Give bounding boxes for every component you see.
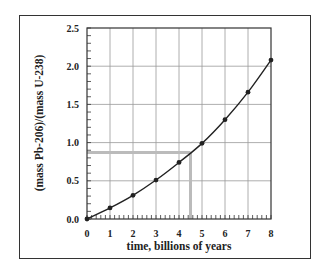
data-point-marker — [246, 90, 251, 95]
x-tick-label: 4 — [177, 228, 182, 239]
data-point-marker — [177, 160, 182, 165]
data-point-marker — [85, 217, 90, 222]
data-point-marker — [131, 193, 136, 198]
data-point-marker — [108, 206, 113, 211]
x-tick-label: 6 — [223, 228, 228, 239]
x-axis-title: time, billions of years — [127, 240, 232, 253]
reference-lines — [87, 153, 191, 219]
y-axis-title: (mass Pb-206)/(mass U-238) — [33, 54, 46, 191]
y-tick-label: 1.0 — [67, 137, 80, 148]
y-tick-labels: 0.00.51.01.52.02.5 — [67, 23, 80, 225]
data-point-marker — [154, 178, 159, 183]
x-tick-label: 0 — [85, 228, 90, 239]
x-tick-label: 3 — [154, 228, 159, 239]
y-tick-label: 1.5 — [67, 99, 80, 110]
data-point-marker — [200, 141, 205, 146]
y-tick-label: 2.5 — [67, 23, 80, 34]
data-point-marker — [269, 58, 274, 63]
y-tick-label: 0.5 — [67, 175, 80, 186]
chart-plot: 012345678 0.00.51.01.52.02.5 time, billi… — [0, 0, 330, 272]
x-tick-label: 7 — [246, 228, 251, 239]
y-tick-label: 0.0 — [67, 214, 80, 225]
x-tick-label: 1 — [108, 228, 113, 239]
x-tick-label: 2 — [131, 228, 136, 239]
gridlines — [87, 28, 271, 219]
data-point-marker — [223, 117, 228, 122]
x-tick-labels: 012345678 — [85, 228, 274, 239]
x-tick-label: 5 — [200, 228, 205, 239]
x-tick-label: 8 — [269, 228, 274, 239]
y-tick-label: 2.0 — [67, 61, 80, 72]
